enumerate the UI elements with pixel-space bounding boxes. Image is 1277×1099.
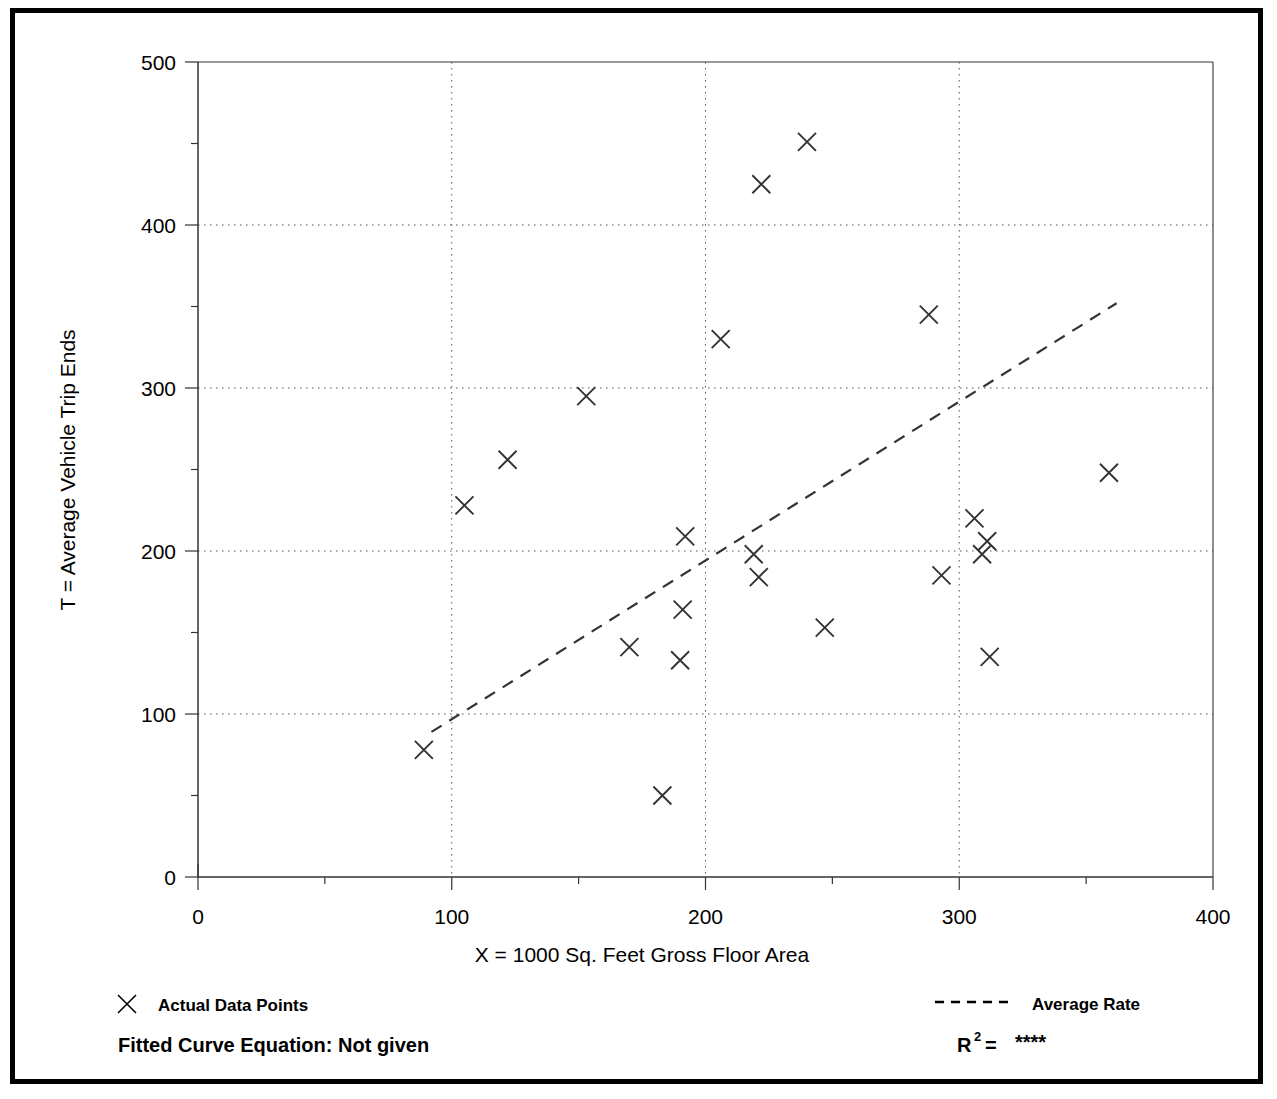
data-point-marker (674, 601, 692, 619)
data-point-marker (981, 648, 999, 666)
r-squared-value: R 2 = **** (957, 1029, 1046, 1056)
average-rate-line (431, 303, 1116, 732)
x-marker-icon (118, 995, 136, 1013)
figure-page: 01002003004005000100200300400 X = 1000 S… (0, 0, 1277, 1099)
data-point-marker (745, 545, 763, 563)
x-axis-title: X = 1000 Sq. Feet Gross Floor Area (475, 943, 810, 966)
y-axis-title: T = Average Vehicle Trip Ends (56, 329, 79, 610)
legend-average-rate-label: Average Rate (1032, 995, 1140, 1014)
data-point-marker (577, 387, 595, 405)
y-tick-label: 0 (164, 866, 176, 889)
x-tick-label: 0 (192, 905, 204, 928)
data-point-marker (920, 306, 938, 324)
axes (185, 62, 1213, 890)
data-point-marker (932, 566, 950, 584)
x-tick-label: 200 (688, 905, 723, 928)
legend-actual-data-points-label: Actual Data Points (158, 996, 308, 1015)
data-points (415, 133, 1118, 805)
data-point-marker (798, 133, 816, 151)
r2-stars: **** (1015, 1031, 1046, 1053)
x-tick-label: 100 (434, 905, 469, 928)
data-point-marker (455, 496, 473, 514)
data-point-marker (499, 451, 517, 469)
y-tick-label: 400 (141, 214, 176, 237)
data-point-marker (415, 741, 433, 759)
data-point-marker (752, 175, 770, 193)
legend-actual-data-points: Actual Data Points (118, 995, 308, 1015)
data-point-marker (1100, 464, 1118, 482)
data-point-marker (973, 545, 991, 563)
x-tick-label: 400 (1195, 905, 1230, 928)
data-point-marker (712, 330, 730, 348)
data-point-marker (671, 651, 689, 669)
gridlines (198, 62, 1213, 877)
average-rate-trendline (431, 303, 1116, 732)
r2-equals: = (985, 1034, 997, 1056)
tick-labels: 01002003004005000100200300400 (141, 51, 1231, 928)
legend-average-rate: Average Rate (935, 995, 1140, 1014)
data-point-marker (676, 527, 694, 545)
x-tick-label: 300 (942, 905, 977, 928)
y-tick-label: 100 (141, 703, 176, 726)
scatter-chart: 01002003004005000100200300400 X = 1000 S… (0, 0, 1277, 1099)
r2-exponent: 2 (974, 1029, 981, 1044)
y-tick-label: 500 (141, 51, 176, 74)
data-point-marker (816, 619, 834, 637)
r2-base: R (957, 1034, 972, 1056)
data-point-marker (750, 568, 768, 586)
data-point-marker (653, 787, 671, 805)
chart-svg: 01002003004005000100200300400 X = 1000 S… (0, 0, 1277, 1099)
data-point-marker (965, 509, 983, 527)
fitted-curve-equation: Fitted Curve Equation: Not given (118, 1034, 429, 1056)
data-point-marker (620, 638, 638, 656)
y-tick-label: 300 (141, 377, 176, 400)
y-tick-label: 200 (141, 540, 176, 563)
data-point-marker (978, 532, 996, 550)
